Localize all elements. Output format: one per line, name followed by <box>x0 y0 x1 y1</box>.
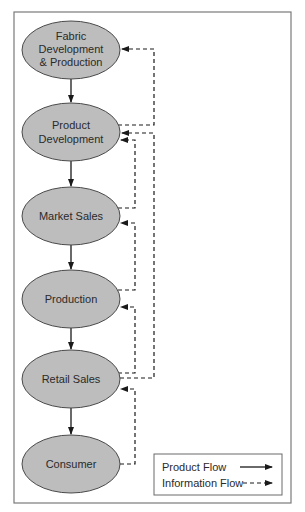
node-label-line: Production <box>45 293 98 305</box>
node-label-line: Fabric <box>56 30 87 42</box>
node-market-sales: Market Sales <box>22 187 120 245</box>
info-product-dev-to-fabric <box>118 49 154 125</box>
node-label-line: Market Sales <box>39 210 104 222</box>
info-consumer-to-retail-sales <box>120 389 135 464</box>
node-label-line: Retail Sales <box>42 373 101 385</box>
node-label-line: Development <box>39 133 104 145</box>
info-production-to-market-sales <box>118 223 135 290</box>
node-retail-sales: Retail Sales <box>22 350 120 408</box>
node-label-line: Consumer <box>46 458 97 470</box>
node-label-line: Product <box>52 119 90 131</box>
diagram-frame <box>14 12 291 503</box>
info-market-sales-to-product-dev <box>118 140 135 208</box>
legend-information-flow-label: Information Flow <box>162 477 243 489</box>
node-fabric-development-production: Fabric Development & Production <box>22 21 120 79</box>
node-consumer: Consumer <box>22 435 120 493</box>
node-label-line: & Production <box>40 56 103 68</box>
flow-diagram: Fabric Development & Production Product … <box>0 0 305 512</box>
legend: Product Flow Information Flow <box>154 454 282 495</box>
node-product-development: Product Development <box>22 103 120 161</box>
information-flow-arrows <box>118 49 154 464</box>
node-production: Production <box>22 270 120 328</box>
info-retail-sales-to-product-dev <box>120 133 154 378</box>
legend-product-flow-label: Product Flow <box>162 461 226 473</box>
info-retail-sales-to-production <box>118 307 135 373</box>
node-label-line: Development <box>39 43 104 55</box>
